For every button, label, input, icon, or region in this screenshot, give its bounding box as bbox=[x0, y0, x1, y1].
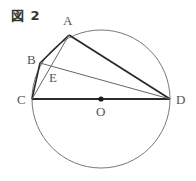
segment-ac bbox=[32, 35, 69, 99]
geometry-diagram: A B C D E O bbox=[0, 0, 196, 181]
label-c: C bbox=[17, 92, 26, 107]
segment-ad bbox=[69, 35, 170, 99]
segment-bc bbox=[32, 63, 40, 99]
label-d: D bbox=[176, 92, 185, 107]
segment-bd bbox=[40, 63, 170, 99]
label-a: A bbox=[63, 13, 73, 28]
center-point-o bbox=[98, 96, 103, 101]
label-e: E bbox=[49, 70, 57, 85]
segment-ab bbox=[40, 35, 69, 63]
label-b: B bbox=[27, 52, 36, 67]
label-o: O bbox=[96, 104, 105, 119]
